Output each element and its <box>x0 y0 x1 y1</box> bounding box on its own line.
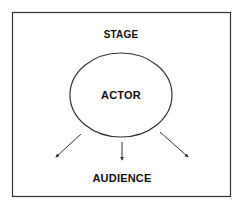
stage-label: STAGE <box>90 29 152 40</box>
arrow-right <box>160 132 188 157</box>
audience-label: AUDIENCE <box>76 172 168 184</box>
arrow-left <box>56 134 81 157</box>
stage-frame <box>13 13 231 197</box>
actor-label: ACTOR <box>90 89 152 101</box>
